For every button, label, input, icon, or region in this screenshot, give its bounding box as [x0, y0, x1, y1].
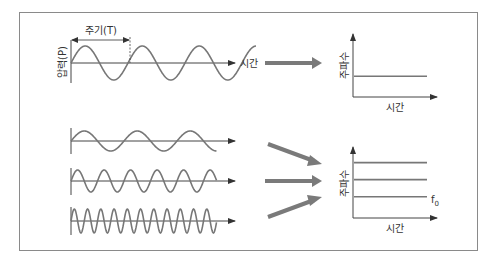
top-frequency-graph: 주파수 시간: [339, 34, 437, 113]
top-transform-arrow: [265, 57, 322, 69]
top-frequency-axis-label: 주파수: [339, 52, 350, 79]
f0-label: f0: [431, 194, 439, 208]
period-label: 주기(T): [85, 25, 117, 36]
pressure-axis-label: 압력(P): [56, 46, 68, 78]
bottom-freq-time-label: 시간: [386, 223, 404, 234]
bottom-frequency-graph: 주파수 시간 f0: [339, 147, 439, 234]
middle-converging-arrow: [265, 175, 322, 187]
bottom-frequency-axis-label: 주파수: [339, 170, 350, 197]
top-time-label: 시간: [240, 58, 258, 69]
bottom-transform-arrows: [265, 144, 322, 217]
top-pressure-wave-panel: 주기(T) 압력(P) 시간: [56, 25, 258, 83]
sound-frequency-diagram: 주기(T) 압력(P) 시간 주파수 시간: [0, 0, 494, 261]
lower-converging-arrow: [268, 195, 322, 217]
top-freq-time-label: 시간: [386, 102, 404, 113]
bottom-waves-panel: [71, 128, 235, 235]
upper-converging-arrow: [268, 144, 322, 166]
f0-subscript: 0: [435, 200, 439, 208]
